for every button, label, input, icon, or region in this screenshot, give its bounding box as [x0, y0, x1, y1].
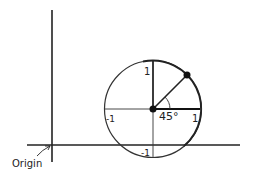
label-bottom: -1	[141, 148, 150, 158]
label-left: -1	[106, 114, 115, 124]
label-right: 1	[192, 113, 198, 124]
radius-45	[153, 75, 187, 109]
label-origin: Origin	[12, 158, 42, 169]
label-top: 1	[144, 66, 150, 77]
label-angle: 45°	[159, 110, 179, 123]
angle-arc	[165, 97, 170, 109]
origin-arrow	[37, 146, 50, 156]
point-on-circle	[184, 72, 191, 79]
unit-circle-right-arc	[143, 61, 201, 146]
center-point	[150, 106, 157, 113]
unit-circle-diagram: 1 -1 1 -1 45° Origin	[0, 0, 255, 180]
diagram-canvas: 1 -1 1 -1 45° Origin	[0, 0, 255, 180]
